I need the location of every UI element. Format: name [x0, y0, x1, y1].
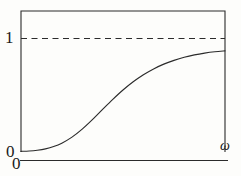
x-axis-symbol-omega: ω [220, 139, 230, 153]
y-axis-tick-label-one: 1 [5, 29, 14, 46]
plot-canvas [0, 0, 241, 176]
response-curve-path [21, 51, 225, 152]
x-axis-origin-label-zero: 0 [12, 155, 21, 172]
plot-frame [21, 11, 225, 152]
plot-frame-path [21, 11, 225, 152]
figure-container: 1 0 0 ω [0, 0, 241, 176]
